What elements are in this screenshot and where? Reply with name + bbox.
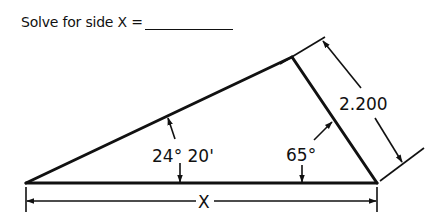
right-angle-label: 65° <box>286 145 316 165</box>
triangle-diagram: 2.200 X 24° 20' 65° <box>0 0 444 224</box>
left-angle-label: 24° 20' <box>152 146 214 166</box>
dimension-line-lower <box>375 118 402 162</box>
extension-line-bottom <box>380 148 424 181</box>
right-side-length-label: 2.200 <box>339 94 388 114</box>
base-length-label: X <box>198 192 210 212</box>
dimension-line-upper <box>323 41 361 88</box>
extension-line-top <box>280 37 325 64</box>
